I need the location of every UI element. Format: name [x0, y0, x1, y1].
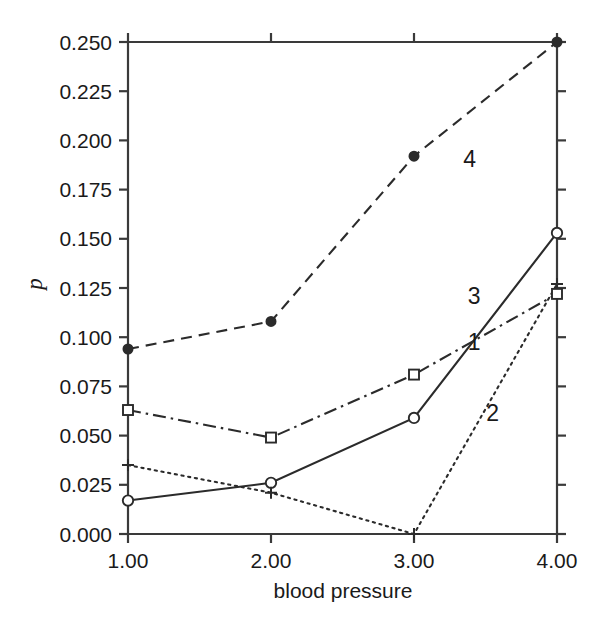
marker-3: [552, 289, 562, 299]
y-tick-label: 0.050: [59, 424, 112, 447]
y-tick-label: 0.250: [59, 31, 112, 54]
series-label-1: 1: [468, 329, 481, 355]
series-label-3: 3: [468, 283, 481, 309]
y-tick-label: 0.225: [59, 80, 112, 103]
y-tick-label: 0.200: [59, 129, 112, 152]
x-tick-label: 2.00: [251, 549, 292, 572]
y-tick-label: 0.000: [59, 523, 112, 546]
y-axis-label: p: [22, 278, 47, 292]
marker-4: [552, 37, 561, 46]
marker-4: [123, 344, 132, 353]
series-label-2: 2: [486, 400, 499, 426]
y-tick-label: 0.150: [59, 227, 112, 250]
x-tick-label: 4.00: [537, 549, 578, 572]
marker-1: [123, 495, 133, 505]
y-tick-label: 0.100: [59, 326, 112, 349]
marker-3: [409, 370, 419, 380]
x-tick-label: 1.00: [108, 549, 149, 572]
y-tick-label: 0.075: [59, 375, 112, 398]
marker-1: [552, 228, 562, 238]
y-tick-label: 0.025: [59, 473, 112, 496]
y-tick-label: 0.125: [59, 277, 112, 300]
x-tick-label: 3.00: [394, 549, 435, 572]
interaction-line-chart: 0.0000.0250.0500.0750.1000.1250.1500.175…: [0, 0, 604, 619]
marker-3: [123, 405, 133, 415]
marker-1: [409, 413, 419, 423]
y-tick-label: 0.175: [59, 178, 112, 201]
chart-figure: 0.0000.0250.0500.0750.1000.1250.1500.175…: [0, 0, 604, 619]
marker-1: [266, 478, 276, 488]
marker-4: [409, 152, 418, 161]
marker-3: [266, 433, 276, 443]
x-axis-label: blood pressure: [274, 579, 413, 602]
series-label-4: 4: [463, 146, 476, 172]
marker-4: [266, 317, 275, 326]
